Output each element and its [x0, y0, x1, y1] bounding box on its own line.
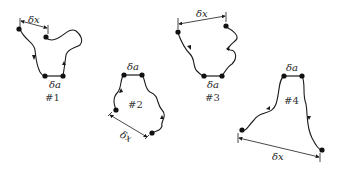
- loop-2-endpoint: [139, 72, 144, 77]
- loop-3-endpoint: [175, 29, 180, 34]
- loop-1-number: #1: [45, 92, 60, 103]
- loop-3-endpoint: [201, 73, 206, 78]
- loop-3: δx δa #3: [175, 8, 237, 103]
- loop-4-path: [242, 76, 322, 150]
- loop-3-number: #3: [205, 92, 220, 103]
- loop-4-direction-arrow: [266, 106, 270, 110]
- loop-2-endpoint: [121, 72, 126, 77]
- loop-1: δx δa #1: [16, 14, 81, 103]
- loop-3-path: [178, 26, 237, 76]
- loop-3-direction-arrow: [187, 45, 191, 50]
- loop-1-endpoint: [60, 73, 65, 78]
- loop-2-number: #2: [128, 99, 143, 110]
- loop-1-path: [20, 29, 82, 76]
- loop-4-delta-x-label: δx: [272, 151, 284, 162]
- loops-diagram: δx δa #1 δa #2 δx δx δa #3: [0, 0, 338, 171]
- loop-1-delta-a-label: δa: [49, 79, 61, 90]
- loop-3-delta-a-label: δa: [207, 79, 219, 90]
- loop-1-endpoint: [42, 73, 47, 78]
- loop-1-endpoint: [16, 26, 21, 31]
- loop-2-endpoint: [113, 107, 118, 112]
- loop-2-direction-arrow: [160, 115, 164, 119]
- loop-4-delta-a-label: δa: [286, 62, 298, 73]
- loop-3-direction-arrow: [226, 46, 229, 51]
- loop-2-delta-x-label: δx: [118, 129, 134, 144]
- loop-3-endpoint: [223, 23, 228, 28]
- loop-4: δa #4 δx: [238, 62, 325, 162]
- loop-4-number: #4: [284, 95, 299, 106]
- loop-3-delta-x-label: δx: [196, 8, 208, 19]
- loop-3-endpoint: [219, 73, 224, 78]
- loop-2-delta-a-label: δa: [127, 61, 139, 72]
- loop-1-delta-x-label: δx: [28, 14, 40, 25]
- loop-4-endpoint: [281, 73, 286, 78]
- loop-1-endpoint: [43, 34, 48, 39]
- loop-2: δa #2 δx: [108, 61, 164, 144]
- loop-4-endpoint: [239, 127, 244, 132]
- loop-4-endpoint: [299, 73, 304, 78]
- loop-2-endpoint: [149, 130, 154, 135]
- loop-4-endpoint: [319, 147, 324, 152]
